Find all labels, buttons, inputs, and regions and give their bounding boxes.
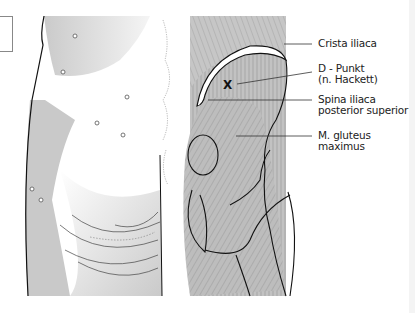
label-text: Crista iliaca [318,37,377,49]
label-line: posterior superior [318,105,408,116]
label-line: (n. Hackett) [318,74,378,85]
label-crista-iliaca: Crista iliaca [318,38,377,49]
left-back-region [25,16,162,296]
anatomy-figure: X Crista iliaca D - Punkt (n. Hackett) S… [0,0,415,313]
d-point-marker: X [223,78,232,92]
label-spina-iliaca: Spina iliaca posterior superior [318,94,408,116]
label-gluteus-maximus: M. gluteus maximus [318,130,371,152]
corner-frame [0,16,13,52]
gluteal-muscles [183,16,294,296]
label-line: maximus [318,141,371,152]
label-d-punkt: D - Punkt (n. Hackett) [318,63,378,85]
page-edge [409,0,415,313]
